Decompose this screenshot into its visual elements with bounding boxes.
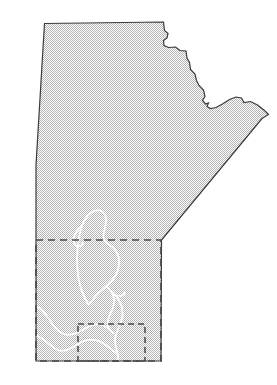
red-river	[118, 354, 119, 362]
manitoba-map-svg	[0, 0, 277, 385]
map-figure	[0, 0, 277, 385]
province-boundary-manitoba	[36, 22, 269, 361]
